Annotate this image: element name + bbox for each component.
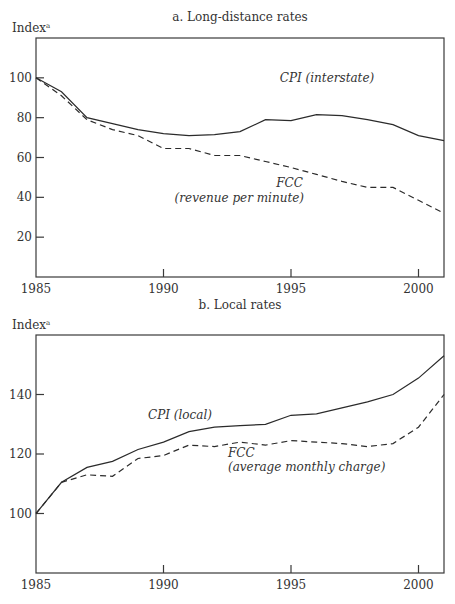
panel-a-y-ticks: 20406080100	[9, 71, 44, 244]
x-tick-label: 1990	[148, 282, 179, 296]
panel-a-ylabel: Indexa	[12, 21, 50, 35]
x-tick-label: 1985	[21, 578, 52, 592]
panel-b-cpi-annotation: CPI (local)	[148, 408, 212, 422]
y-tick-label: 40	[17, 190, 32, 204]
y-tick-label: 140	[9, 388, 32, 402]
x-tick-label: 2000	[403, 282, 434, 296]
panel-b-ylabel: Indexa	[12, 318, 50, 332]
panel-a-plot-frame	[36, 38, 444, 277]
panel-b-fcc-subannotation: (average monthly charge)	[228, 460, 386, 474]
panel-long-distance-rates: a. Long-distance rates Indexa 2040608010…	[9, 10, 444, 296]
series-line-cpi-interstate	[36, 78, 444, 141]
y-tick-label: 20	[17, 230, 32, 244]
panel-b-x-ticks: 1985199019952000	[21, 565, 434, 592]
y-tick-label: 80	[17, 111, 32, 125]
panel-b-y-ticks: 100120140	[9, 388, 44, 521]
y-tick-label: 60	[17, 151, 32, 165]
panel-b-title: b. Local rates	[198, 298, 281, 312]
panel-a-ylabel-text: Index	[12, 21, 46, 35]
panel-a-title: a. Long-distance rates	[172, 10, 307, 24]
x-tick-label: 1995	[276, 578, 307, 592]
x-tick-label: 1995	[276, 282, 307, 296]
panel-a-fcc-subannotation: (revenue per minute)	[175, 191, 305, 205]
panel-a-x-ticks: 1985199019952000	[21, 269, 434, 296]
x-tick-label: 1990	[148, 578, 179, 592]
y-tick-label: 120	[9, 447, 32, 461]
figure: a. Long-distance rates Indexa 2040608010…	[0, 0, 455, 604]
panel-a-fcc-annotation: FCC	[275, 176, 303, 190]
panel-a-cpi-annotation: CPI (interstate)	[280, 71, 375, 85]
x-tick-label: 1985	[21, 282, 52, 296]
y-tick-label: 100	[9, 71, 32, 85]
y-tick-label: 100	[9, 507, 32, 521]
panel-a-ylabel-superscript: a	[46, 22, 50, 30]
panel-b-ylabel-superscript: a	[46, 319, 50, 327]
panel-local-rates: b. Local rates Indexa 100120140 19851990…	[9, 298, 444, 592]
panel-b-fcc-annotation: FCC	[227, 446, 255, 460]
x-tick-label: 2000	[403, 578, 434, 592]
panel-b-series	[36, 356, 444, 514]
series-line-cpi-local	[36, 356, 444, 514]
panel-b-ylabel-text: Index	[12, 318, 46, 332]
